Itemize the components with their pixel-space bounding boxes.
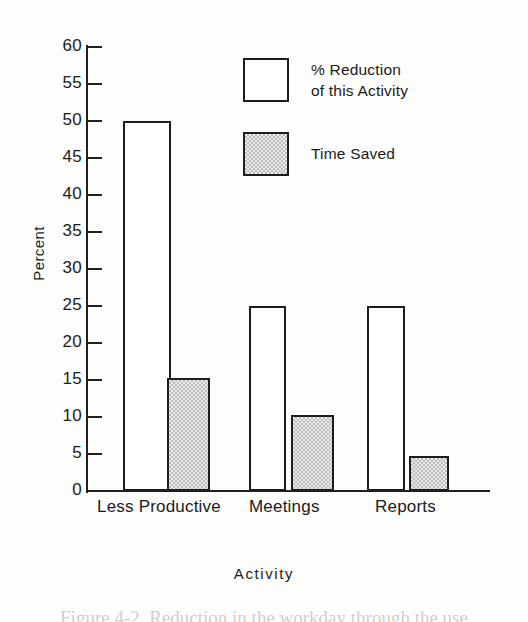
- legend-item-time-saved: Time Saved: [243, 132, 395, 176]
- legend-label-reduction: % Reduction of this Activity: [311, 58, 408, 101]
- scanned-page-background: 60 55 50 45 40 35 30 25 20 15 10 5 0 Per…: [0, 0, 528, 622]
- legend-swatch-open-icon: [243, 58, 289, 102]
- bar-less-productive-time-saved: [167, 378, 210, 491]
- bar-meetings-time-saved: [291, 415, 334, 491]
- bar-less-productive-reduction: [123, 121, 171, 491]
- bar-reports-time-saved: [409, 456, 449, 491]
- bar-meetings-reduction: [249, 306, 286, 491]
- legend-label-time-saved: Time Saved: [311, 132, 395, 164]
- x-axis-title: Activity: [0, 565, 528, 582]
- x-category-label-less-productive: Less Productive: [97, 497, 221, 517]
- bar-chart-figure: 60 55 50 45 40 35 30 25 20 15 10 5 0 Per…: [0, 0, 528, 622]
- figure-caption-sliver: Figure 4-2. Reduction in the workday thr…: [0, 608, 528, 622]
- legend-item-reduction: % Reduction of this Activity: [243, 58, 408, 102]
- x-category-label-meetings: Meetings: [249, 497, 320, 517]
- legend-swatch-stipple-icon: [243, 132, 289, 176]
- bar-reports-reduction: [367, 306, 405, 491]
- x-category-label-reports: Reports: [375, 497, 436, 517]
